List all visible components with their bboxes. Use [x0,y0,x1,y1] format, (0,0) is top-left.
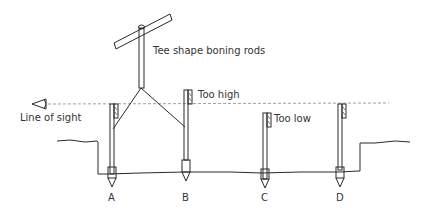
line-of-sight-label: Line of sight [20,113,81,123]
tee-boning-rod [113,14,185,129]
boning-rods-diagram [0,0,431,217]
stake-label-d: D [336,193,344,203]
too-high-label: Too high [198,90,240,100]
too-low-label: Too low [274,114,311,124]
eye-icon [32,99,46,109]
stake-c [261,113,271,188]
stake-label-a: A [108,193,115,203]
stake-label-b: B [182,193,189,203]
tee-label: Tee shape boning rods [153,46,265,56]
stake-d [336,104,346,187]
stake-label-c: C [261,193,268,203]
stake-a [108,104,118,187]
stake-b [182,90,192,181]
